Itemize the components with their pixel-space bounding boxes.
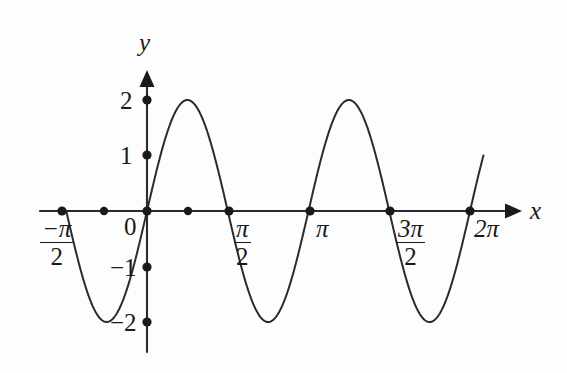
y-tick-label-neg-2: −2 bbox=[110, 310, 137, 335]
y-tick-label-neg-1: −1 bbox=[110, 255, 137, 280]
point-three-half-pi bbox=[385, 206, 394, 215]
point-y-one bbox=[142, 150, 151, 159]
point-y-neg-two bbox=[142, 317, 151, 326]
x-tick-label-neg-half-pi: −π 2 bbox=[40, 216, 73, 269]
fraction-numerator: 3π bbox=[396, 216, 425, 243]
x-tick-label-two-pi: 2π bbox=[474, 216, 499, 241]
graph-figure: y x 2 1 −1 −2 0 −π 2 π 2 π 3π 2 2π bbox=[0, 0, 567, 373]
fraction-numerator: −π bbox=[40, 216, 73, 243]
y-axis-arrowhead bbox=[140, 70, 155, 87]
x-tick-label-origin: 0 bbox=[124, 214, 137, 239]
x-tick-label-three-half-pi: 3π 2 bbox=[396, 216, 425, 269]
fraction-denominator: 2 bbox=[40, 243, 73, 269]
fraction-numerator: π bbox=[234, 216, 251, 243]
point-neg-quarter-pi bbox=[100, 207, 108, 215]
fraction-denominator: 2 bbox=[234, 243, 251, 269]
fraction-three-half-pi: 3π 2 bbox=[396, 216, 425, 269]
x-axis-label: x bbox=[530, 198, 541, 223]
fraction-neg-half-pi: −π 2 bbox=[40, 216, 73, 269]
plot-canvas bbox=[0, 0, 567, 373]
y-tick-label-2: 2 bbox=[120, 88, 133, 113]
x-tick-label-pi: π bbox=[316, 216, 329, 241]
fraction-half-pi: π 2 bbox=[234, 216, 251, 269]
point-pi bbox=[305, 206, 314, 215]
point-y-two bbox=[142, 95, 151, 104]
y-axis-label: y bbox=[139, 30, 150, 55]
point-quarter-pi bbox=[184, 207, 192, 215]
point-half-pi bbox=[224, 206, 233, 215]
x-axis-arrowhead bbox=[505, 204, 522, 219]
fraction-denominator: 2 bbox=[396, 243, 425, 269]
y-tick-label-1: 1 bbox=[120, 143, 133, 168]
point-y-neg-one bbox=[142, 262, 151, 271]
point-origin bbox=[142, 206, 151, 215]
x-tick-label-half-pi: π 2 bbox=[234, 216, 251, 269]
